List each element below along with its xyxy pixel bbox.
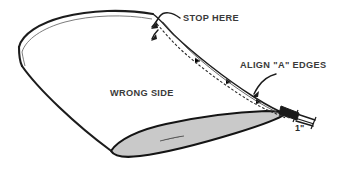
diagram-canvas: STOP HERE ALIGN "A" EDGES WRONG SIDE 1" <box>0 0 340 172</box>
label-wrong-side: WRONG SIDE <box>110 88 174 98</box>
label-align-a-edges: ALIGN "A" EDGES <box>240 60 326 70</box>
label-stop-here: STOP HERE <box>183 13 239 23</box>
label-one-inch: 1" <box>295 123 304 133</box>
sewing-instruction-diagram: STOP HERE ALIGN "A" EDGES WRONG SIDE 1" <box>0 0 340 172</box>
